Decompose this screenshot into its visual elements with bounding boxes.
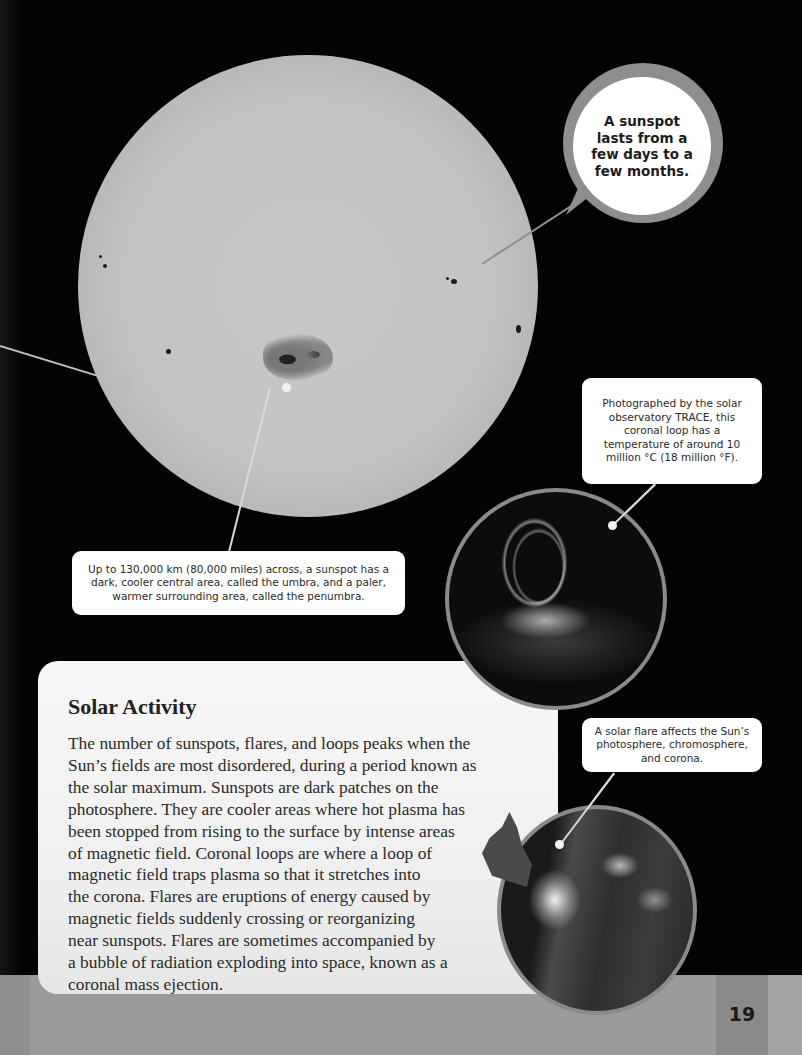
sunspot-small [166,349,171,354]
sunspot-limb [516,325,521,333]
footer-band-right [768,975,802,1055]
bubble-text: A sunspot lasts from a few days to a few… [588,113,696,179]
sunspot-duration-bubble: A sunspot lasts from a few days to a few… [573,77,711,215]
body-line: The number of sunspots, flares, and loop… [68,733,538,755]
sunspot-caption: Up to 130,000 km (80,000 miles) across, … [72,551,405,615]
sunspot-small [103,264,107,268]
sunspot-small [451,279,457,284]
page-edge-shadow [0,0,20,975]
body-line: Sun’s fields are most disordered, during… [68,755,538,777]
leader-dot-trace-top [608,521,617,530]
flare-caption-text: A solar flare affects the Sun’s photosph… [592,725,752,766]
body-line: near sunspots. Flares are sometimes acco… [68,930,538,952]
body-line: coronal mass ejection. [68,974,538,996]
sun-image [78,55,538,517]
page-number: 19 [716,1003,768,1025]
sunspot-caption-text: Up to 130,000 km (80,000 miles) across, … [82,563,395,604]
leader-dot-flare-top [555,840,564,849]
body-line: been stopped from rising to the surface … [68,821,538,843]
trace-caption-text: Photographed by the solar observatory TR… [592,397,752,465]
body-line: the solar maximum. Sunspots are dark pat… [68,777,538,799]
sunspot-group [263,333,333,381]
body-line: magnetic field traps plasma so that it s… [68,864,538,886]
sunspot-small [446,277,449,280]
body-line: magnetic fields suddenly crossing or reo… [68,908,538,930]
leader-dot-sunspot [282,383,291,392]
section-title: Solar Activity [68,694,197,720]
sunspot-small [99,255,102,258]
flare-caption: A solar flare affects the Sun’s photosph… [582,718,762,772]
coronal-loop-photo [445,488,667,710]
body-line: of magnetic field. Coronal loops are whe… [68,843,538,865]
section-body: The number of sunspots, flares, and loop… [68,733,538,996]
body-line: a bubble of radiation exploding into spa… [68,952,538,974]
leader-dot-left [118,376,134,392]
footer-band-left [0,975,30,1055]
body-line: the corona. Flares are eruptions of ener… [68,886,538,908]
solar-flare-photo [497,805,697,1015]
trace-caption: Photographed by the solar observatory TR… [582,378,762,484]
body-line: photosphere. They are cooler areas where… [68,799,538,821]
